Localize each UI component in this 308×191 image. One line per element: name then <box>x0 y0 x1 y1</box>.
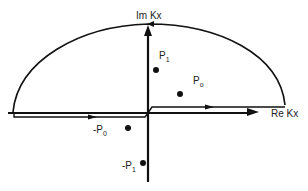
pole-neg-p0-dot <box>125 125 131 131</box>
imaginary-axis-arrow-icon <box>144 25 152 36</box>
pole-p0-dot <box>177 91 183 97</box>
contour-arrow-left-icon <box>88 115 97 120</box>
imaginary-axis-label: Im Kx <box>136 10 162 21</box>
pole-neg-p1-dot <box>140 160 146 166</box>
pole-neg-p0-label: -P0 <box>93 124 107 137</box>
real-axis-arrow-icon <box>247 108 259 116</box>
pole-p1-dot <box>153 67 159 73</box>
pole-p1-label: P1 <box>159 50 170 63</box>
contour-arrow-right-icon <box>205 105 214 110</box>
pole-p0-label: Po <box>193 75 204 88</box>
complex-plane-diagram: Im Kx Re Kx P1 Po -P0 -P1 <box>0 0 308 191</box>
pole-neg-p1-label: -P1 <box>122 160 136 173</box>
real-axis-label: Re Kx <box>271 108 298 119</box>
